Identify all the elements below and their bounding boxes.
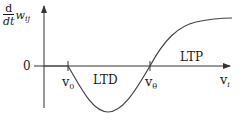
v0-label: v0: [62, 75, 74, 91]
plasticity-curve: [44, 18, 232, 112]
vtheta-label: vθ: [145, 75, 157, 91]
ltd-label: LTD: [93, 74, 118, 86]
zero-label: 0: [23, 60, 31, 72]
ltp-label: LTP: [180, 51, 203, 63]
x-axis-label: vi: [220, 73, 230, 89]
y-axis-label: d dt wij: [3, 3, 30, 27]
plot-area: [0, 0, 243, 122]
